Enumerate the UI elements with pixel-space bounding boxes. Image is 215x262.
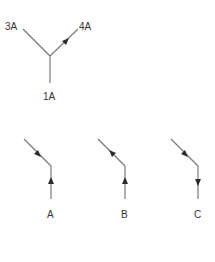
arrow-up-icon (48, 177, 54, 184)
option-c-diagram: C (171, 139, 201, 220)
arrow-down-icon (195, 179, 201, 186)
arrow-down-right-icon (181, 150, 188, 157)
current-junction-diagram: 3A 4A 1A A B C (0, 0, 215, 262)
option-c-label: C (194, 209, 201, 220)
option-b-label: B (121, 209, 128, 220)
arrow-down-right-icon (34, 150, 41, 157)
option-a-diagram: A (24, 139, 54, 220)
option-a-label: A (47, 209, 54, 220)
label-4a: 4A (79, 21, 92, 32)
label-1a: 1A (43, 91, 56, 102)
branch-3a-wire (23, 29, 50, 56)
label-3a: 3A (5, 21, 18, 32)
y-junction: 3A 4A 1A (5, 21, 92, 102)
option-b-diagram: B (98, 139, 128, 220)
arrow-up-icon (122, 177, 128, 184)
